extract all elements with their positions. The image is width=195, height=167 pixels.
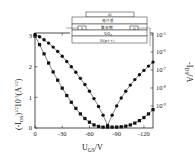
inset-device-structure: Al 电介质 S D 聚合物 SiO2 Si(p++) [66,10,150,50]
y-left-tick-label: 2 [29,63,32,70]
y-right-axis-title: -IDS/A [184,62,194,83]
y-left-tick-label: 3 [29,32,32,39]
y-right-tick-label: 10-9 [156,102,166,110]
x-tick-label: -60 [85,130,94,137]
transfer-curve-chart: 0-30-60-90-120 0123 10-510-610-710-810-9… [0,0,195,167]
inset-dielectric-label: 电介质 [102,18,114,23]
x-tick-label: -90 [112,130,121,137]
y-left-tick-label: 0 [29,124,32,131]
inset-substrate-label: Si(p++) [100,39,115,43]
y-right-tick-label: 10-8 [156,84,166,92]
inset-polymer-label: 聚合物 [101,25,113,30]
y-left-axis-ticks: 0123 [29,32,38,131]
x-axis-title: UGS/V [82,143,103,153]
x-tick-label: -120 [138,130,150,137]
inset-gate-label: Al [108,13,111,17]
y-right-tick-label: 10-6 [156,48,166,56]
y-left-axis-title: (-IDS)1/210-3(A1/2) [14,78,24,130]
x-tick-label: 0 [33,130,36,137]
y-right-tick-label: 10-7 [156,66,166,74]
x-tick-label: -30 [58,130,67,137]
y-right-tick-label: 10-5 [156,31,166,39]
y-left-tick-label: 1 [29,94,32,101]
